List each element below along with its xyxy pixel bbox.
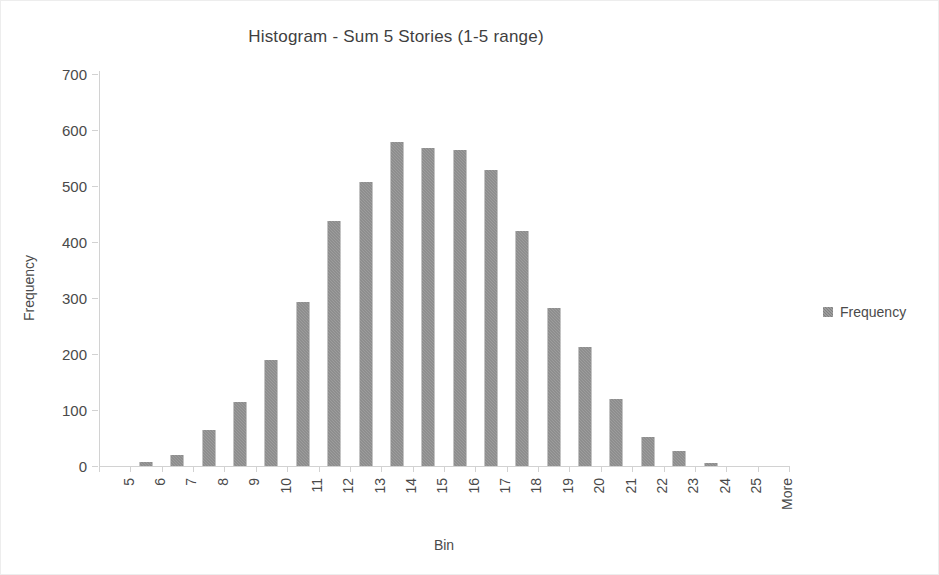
y-axis-tick-label: 500 (62, 178, 87, 195)
bar-slot (538, 74, 569, 466)
x-axis-tick-label: 19 (560, 478, 576, 494)
bar-slot (695, 74, 726, 466)
bar (422, 148, 435, 466)
bar (641, 437, 654, 466)
bar (610, 399, 623, 466)
bar-slot (601, 74, 632, 466)
x-axis-tick (350, 466, 351, 472)
x-axis-tick-label: 13 (372, 478, 388, 494)
bar-slot (99, 74, 130, 466)
y-axis-tick (92, 354, 98, 355)
bar-slot (224, 74, 255, 466)
bar-slot (475, 74, 506, 466)
x-axis-tick (726, 466, 727, 472)
legend-entry-label: Frequency (840, 304, 906, 320)
bar (296, 302, 309, 466)
y-axis-tick (92, 242, 98, 243)
x-axis-tick (632, 466, 633, 472)
x-axis-tick (381, 466, 382, 472)
bar-slot (350, 74, 381, 466)
x-axis-tick-label: 23 (685, 478, 701, 494)
bar (359, 182, 372, 466)
bar-slot (162, 74, 193, 466)
bar (547, 308, 560, 466)
bar (171, 455, 184, 466)
bar-slot (381, 74, 412, 466)
bar-slot (758, 74, 789, 466)
bar (390, 142, 403, 466)
y-axis-title: Frequency (21, 254, 37, 320)
x-axis-tick (413, 466, 414, 472)
x-axis-tick (287, 466, 288, 472)
x-axis-tick-label: 17 (497, 478, 513, 494)
x-axis-tick-label: 24 (717, 478, 733, 494)
x-axis-tick (130, 466, 131, 472)
x-axis-tick (475, 466, 476, 472)
x-axis-tick (99, 466, 100, 472)
x-axis-tick-label: 6 (152, 478, 168, 486)
y-axis-tick-label: 400 (62, 234, 87, 251)
bar (579, 347, 592, 466)
x-axis-tick (224, 466, 225, 472)
x-axis-tick-label: 20 (591, 478, 607, 494)
bar (453, 150, 466, 466)
x-axis-tick-label: 5 (121, 478, 137, 486)
x-axis-tick (789, 466, 790, 472)
x-axis-tick-label: 15 (434, 478, 450, 494)
x-axis-tick (664, 466, 665, 472)
plot-area: 0100200300400500600700 56789101112131415… (99, 74, 789, 466)
x-axis-tick (193, 466, 194, 472)
y-axis-tick-label: 300 (62, 290, 87, 307)
y-axis-tick-label: 0 (79, 458, 87, 475)
x-axis-tick-label: 7 (183, 478, 199, 486)
x-axis-tick-label: 25 (748, 478, 764, 494)
bar (516, 231, 529, 466)
x-axis-tick-label: 10 (278, 478, 294, 494)
bar-slot (413, 74, 444, 466)
x-axis-tick (256, 466, 257, 472)
bar-slot (444, 74, 475, 466)
x-axis-tick-label: More (779, 478, 795, 510)
bar (485, 170, 498, 466)
x-axis-tick-label: 14 (403, 478, 419, 494)
bar-series (99, 74, 789, 466)
x-axis-tick (538, 466, 539, 472)
x-axis-tick (162, 466, 163, 472)
y-axis-tick (92, 74, 98, 75)
chart-container: Histogram - Sum 5 Stories (1-5 range) Fr… (0, 0, 939, 575)
y-axis-tick-label: 200 (62, 346, 87, 363)
y-axis-tick (92, 466, 98, 467)
bar-slot (569, 74, 600, 466)
bar-slot (256, 74, 287, 466)
x-axis-tick (507, 466, 508, 472)
chart-legend: Frequency (823, 304, 906, 320)
bar (202, 430, 215, 466)
bar-slot (193, 74, 224, 466)
bar-slot (632, 74, 663, 466)
x-axis-tick-label: 8 (215, 478, 231, 486)
bar (140, 462, 153, 466)
y-axis-tick (92, 410, 98, 411)
x-axis-tick-label: 11 (309, 478, 325, 493)
bar (234, 402, 247, 466)
y-axis-tick (92, 186, 98, 187)
x-axis-tick-label: 21 (623, 478, 639, 494)
y-axis-tick-label: 700 (62, 66, 87, 83)
bar-slot (130, 74, 161, 466)
bar-slot (287, 74, 318, 466)
y-axis-tick (92, 130, 98, 131)
x-axis-tick (695, 466, 696, 472)
bar-slot (726, 74, 757, 466)
bar (328, 221, 341, 466)
x-axis-tick-label: 22 (654, 478, 670, 494)
y-axis-tick-label: 600 (62, 122, 87, 139)
x-axis-tick (569, 466, 570, 472)
y-axis-tick-label: 100 (62, 402, 87, 419)
x-axis-tick (758, 466, 759, 472)
chart-title: Histogram - Sum 5 Stories (1-5 range) (1, 27, 791, 47)
x-axis-tick-label: 16 (466, 478, 482, 494)
x-axis-tick-label: 9 (246, 478, 262, 486)
legend-swatch-icon (823, 307, 833, 317)
x-axis-tick (601, 466, 602, 472)
x-axis-tick (444, 466, 445, 472)
